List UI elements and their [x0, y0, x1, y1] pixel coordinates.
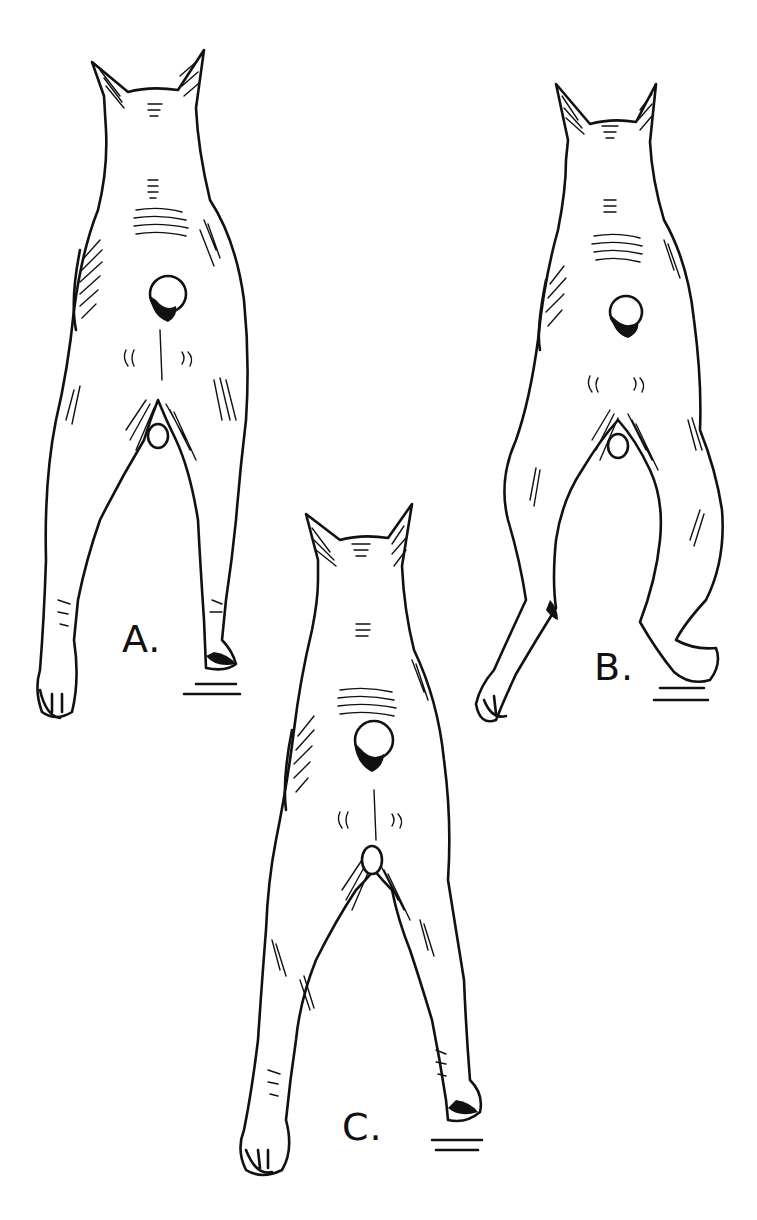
figure-label-c: C.: [342, 1108, 383, 1146]
illustration-canvas: A. B. C.: [0, 0, 757, 1220]
figure-label-b: B.: [594, 648, 634, 686]
dog-figure-c: [0, 0, 757, 1220]
figure-label-a: A.: [122, 620, 161, 658]
